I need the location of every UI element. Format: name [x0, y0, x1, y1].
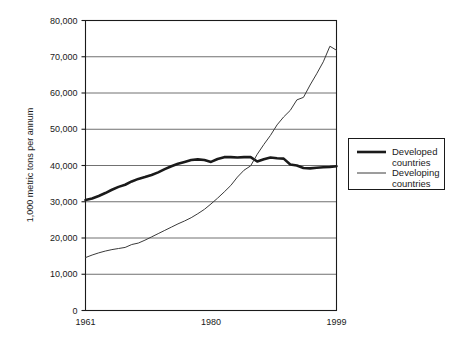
x-tick-label: 1999 — [326, 317, 346, 327]
line-chart: 010,00020,00030,00040,00050,00060,00070,… — [0, 0, 462, 340]
y-axis-title: 1,000 metric tons per annum — [25, 108, 35, 223]
x-tick-label: 1961 — [75, 317, 95, 327]
y-tick-label: 30,000 — [50, 197, 78, 207]
data-series-group — [86, 46, 337, 257]
y-tick-label: 50,000 — [50, 124, 78, 134]
chart-figure: 010,00020,00030,00040,00050,00060,00070,… — [0, 0, 462, 340]
x-tick-label: 1980 — [201, 317, 221, 327]
y-tick-label: 10,000 — [50, 269, 78, 279]
y-axis-tick-labels: 010,00020,00030,00040,00050,00060,00070,… — [50, 16, 78, 316]
y-tick-label: 80,000 — [50, 16, 78, 26]
chart-legend: Developed countries Developing countries — [349, 139, 445, 190]
legend-label-developing-line2: countries — [392, 178, 431, 189]
series-line-developed-countries — [86, 157, 337, 200]
legend-label-developed-line1: Developed — [392, 146, 437, 157]
y-tick-marks — [82, 21, 86, 311]
y-tick-label: 40,000 — [50, 161, 78, 171]
series-line-developing-countries — [86, 46, 337, 257]
y-tick-label: 70,000 — [50, 52, 78, 62]
y-tick-label: 0 — [72, 306, 77, 316]
legend-label-developing-line1: Developing — [392, 167, 440, 178]
y-tick-label: 60,000 — [50, 88, 78, 98]
x-axis-tick-labels: 196119801999 — [75, 317, 346, 327]
y-tick-label: 20,000 — [50, 233, 78, 243]
